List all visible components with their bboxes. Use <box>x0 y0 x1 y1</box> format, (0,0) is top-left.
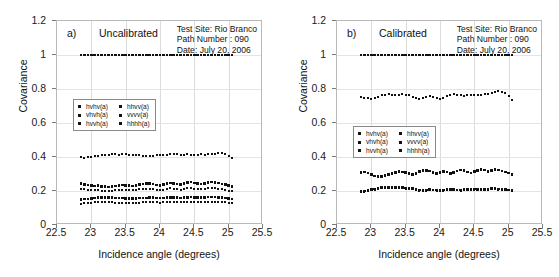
data-point-hhhha <box>80 54 83 57</box>
path-number-b: Path Number : 090 <box>457 34 537 44</box>
data-point-hhvva <box>404 171 407 174</box>
data-point-hhvva <box>148 196 151 199</box>
test-site-a: Test Site: Rio Branco <box>177 24 257 34</box>
data-point-vvvva <box>190 154 192 156</box>
data-point-vhvha <box>494 188 496 190</box>
data-point-hhhha <box>511 54 514 57</box>
figure-covariance-vs-incidence-angle: Covariance Incidence angle (degrees) 00.… <box>0 0 559 277</box>
data-point-vvvva <box>370 98 372 100</box>
data-point-hhvva <box>152 196 155 199</box>
data-point-vvvva <box>135 154 137 156</box>
data-point-hhhha <box>411 54 414 57</box>
data-point-hvhva <box>221 183 224 186</box>
data-point-hhhha <box>370 54 373 57</box>
data-point-hvhva <box>87 184 90 187</box>
data-point-hhhha <box>100 54 103 57</box>
data-point-vhvha <box>97 189 99 191</box>
data-point-hhvva <box>227 197 230 200</box>
data-point-hvhva <box>155 184 158 187</box>
data-point-vvvva <box>374 97 376 99</box>
data-point-vvvva <box>384 94 386 96</box>
data-point-vhvha <box>118 189 120 191</box>
data-point-vhvha <box>460 190 462 192</box>
data-point-hhvva <box>145 197 148 200</box>
data-point-hhhha <box>214 54 217 57</box>
data-point-hhvva <box>490 169 493 172</box>
data-point-vhvha <box>231 190 233 192</box>
data-point-hhhha <box>459 54 462 57</box>
data-point-hhvva <box>391 172 394 175</box>
data-point-hhvva <box>428 170 431 173</box>
data-point-vvvva <box>217 152 219 154</box>
data-point-vvvva <box>436 97 438 99</box>
data-point-vhvha <box>401 187 403 189</box>
legend-item: vvvv(a) <box>399 138 430 145</box>
data-point-hhvva <box>135 197 138 200</box>
data-point-hhhha <box>224 54 227 57</box>
gridline-horizontal <box>337 89 541 90</box>
data-point-hhvva <box>449 172 452 175</box>
data-point-hvhva <box>131 185 134 188</box>
data-point-hhhha <box>401 54 404 57</box>
data-point-hhvva <box>411 173 414 176</box>
data-point-vvvva <box>211 153 213 155</box>
data-point-hhhha <box>380 54 383 57</box>
legend-label: hhvv(a) <box>407 130 429 137</box>
data-point-vhvha <box>180 189 182 191</box>
data-point-vvvva <box>446 95 448 97</box>
data-point-vhvha <box>408 188 410 190</box>
gridline-horizontal <box>337 123 541 124</box>
legend-marker-icon <box>78 105 81 108</box>
data-point-hhhha <box>456 54 459 57</box>
data-point-hhvva <box>446 171 449 174</box>
data-point-vhvha <box>173 188 175 190</box>
legend-item: hvhv(a) <box>358 130 388 137</box>
data-point-hhvva <box>480 168 483 171</box>
data-point-hvhva <box>97 184 100 187</box>
data-point-vhvha <box>466 189 468 191</box>
data-point-vhvha <box>104 190 106 192</box>
data-point-hhhha <box>159 54 162 57</box>
legend-item: hvvh(a) <box>358 147 388 154</box>
data-point-vhvha <box>511 190 513 192</box>
y-tick-label: 0.2 <box>292 185 326 195</box>
data-point-hvvha <box>162 201 164 203</box>
data-point-hhhha <box>384 54 387 57</box>
data-point-vhvha <box>101 190 103 192</box>
data-point-hhhha <box>183 54 186 57</box>
data-point-hhhha <box>394 54 397 57</box>
data-point-hvvha <box>197 201 199 203</box>
data-point-vvvva <box>487 93 489 95</box>
data-point-vvvva <box>367 97 369 99</box>
data-point-vvvva <box>480 94 482 96</box>
data-point-hhhha <box>387 54 390 57</box>
data-point-hhvva <box>466 171 469 174</box>
data-point-hhvva <box>377 175 380 178</box>
data-point-vhvha <box>128 189 130 191</box>
data-point-hvvha <box>128 202 130 204</box>
legend-label: vvvv(a) <box>407 138 428 145</box>
data-point-hvvha <box>186 201 188 203</box>
data-point-vhvha <box>480 189 482 191</box>
plot-area-a: a) Uncalibrated Test Site: Rio Branco Pa… <box>56 20 262 224</box>
data-point-hvvha <box>83 202 85 204</box>
data-point-vhvha <box>80 188 82 190</box>
data-point-vvvva <box>159 154 161 156</box>
data-point-vhvha <box>159 189 161 191</box>
data-point-hvvha <box>166 201 168 203</box>
y-tick-label: 0.8 <box>12 83 46 93</box>
data-point-hhhha <box>494 54 497 57</box>
data-point-vvvva <box>111 153 113 155</box>
data-point-hvvha <box>121 202 123 204</box>
data-point-vvvva <box>442 97 444 99</box>
data-point-hvvha <box>211 201 213 203</box>
data-point-vvvva <box>377 96 379 98</box>
data-point-hhvva <box>463 169 466 172</box>
data-point-hhhha <box>152 54 155 57</box>
data-point-hhhha <box>97 54 100 57</box>
data-point-hvhva <box>176 183 179 186</box>
data-point-hvhva <box>227 184 230 187</box>
data-point-vvvva <box>425 96 427 98</box>
data-point-vvvva <box>511 99 513 101</box>
data-point-hhvva <box>121 197 124 200</box>
